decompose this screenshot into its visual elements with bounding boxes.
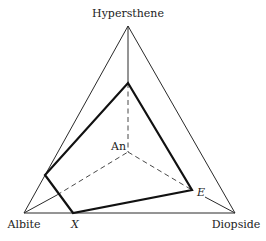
label-x: X xyxy=(70,218,80,231)
label-hypersthene: Hypersthene xyxy=(92,7,164,20)
label-e: E xyxy=(196,186,205,199)
edge-an-diopside-hidden xyxy=(128,152,192,190)
edge-hypersthene-diopside xyxy=(128,26,235,213)
label-an: An xyxy=(110,140,126,153)
label-albite: Albite xyxy=(7,218,41,231)
label-diopside: Diopside xyxy=(212,218,261,231)
edge-albite-hypersthene xyxy=(24,26,128,213)
edge-albite-an-hidden xyxy=(57,152,128,195)
tetrahedron-diagram: Hypersthene Albite Diopside An X E xyxy=(0,0,266,241)
